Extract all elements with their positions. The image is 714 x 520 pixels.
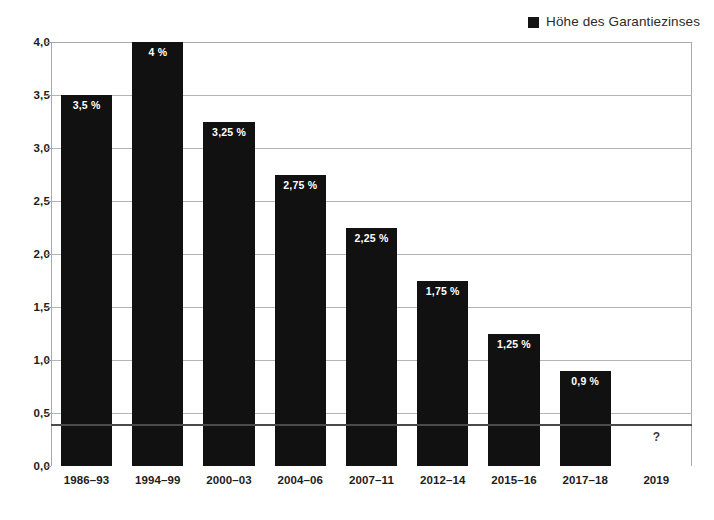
bar: 1,75 %	[417, 281, 468, 467]
legend-swatch-icon	[528, 17, 539, 28]
x-tick-label: 2004–06	[265, 474, 336, 486]
y-tick-label: 3,0	[10, 142, 50, 154]
y-tick-label: 0,0	[10, 460, 50, 472]
bar: 0,9 %	[560, 371, 611, 466]
x-tick-label: 2012–14	[407, 474, 478, 486]
unknown-value-marker: ?	[653, 430, 660, 444]
bar-value-label: 1,25 %	[488, 339, 539, 351]
x-tick-label: 2007–11	[336, 474, 407, 486]
chart-legend: Höhe des Garantiezinses	[528, 14, 700, 30]
bar-chart: Höhe des Garantiezinses 0,00,51,01,52,02…	[0, 0, 714, 520]
bar: 4 %	[132, 42, 183, 466]
scan-artifact	[0, 0, 714, 3]
y-tick-label: 0,5	[10, 407, 50, 419]
bar-value-label: 1,75 %	[417, 286, 468, 298]
x-axis-line	[51, 424, 692, 426]
plot-area: 3,5 %4 %3,25 %2,75 %2,25 %1,75 %1,25 %0,…	[51, 42, 692, 466]
y-tick-label: 4,0	[10, 36, 50, 48]
x-tick-label: 2015–16	[478, 474, 549, 486]
y-tick-label: 1,5	[10, 301, 50, 313]
y-tick-label: 2,0	[10, 248, 50, 260]
y-tick-label: 1,0	[10, 354, 50, 366]
legend-label: Höhe des Garantiezinses	[546, 15, 700, 29]
x-tick-label: 2000–03	[193, 474, 264, 486]
bar: 3,25 %	[203, 122, 254, 467]
x-tick-label: 1994–99	[122, 474, 193, 486]
bar-unknown-placeholder: ?	[631, 42, 682, 466]
bar: 2,25 %	[346, 228, 397, 467]
bar-value-label: 3,5 %	[61, 100, 112, 112]
bar: 1,25 %	[488, 334, 539, 467]
bar: 3,5 %	[61, 95, 112, 466]
bar-value-label: 3,25 %	[203, 127, 254, 139]
bar-value-label: 0,9 %	[560, 376, 611, 388]
x-tick-label: 2017–18	[550, 474, 621, 486]
y-tick-mark	[45, 466, 51, 467]
x-tick-label: 2019	[621, 474, 692, 486]
bar-value-label: 4 %	[132, 47, 183, 59]
y-tick-label: 3,5	[10, 89, 50, 101]
bar: 2,75 %	[275, 175, 326, 467]
y-tick-label: 2,5	[10, 195, 50, 207]
bar-value-label: 2,25 %	[346, 233, 397, 245]
x-tick-label: 1986–93	[51, 474, 122, 486]
bar-value-label: 2,75 %	[275, 180, 326, 192]
